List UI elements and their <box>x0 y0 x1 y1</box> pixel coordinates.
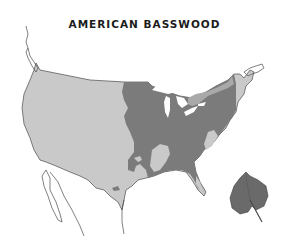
basswood-leaf-icon <box>0 0 289 248</box>
